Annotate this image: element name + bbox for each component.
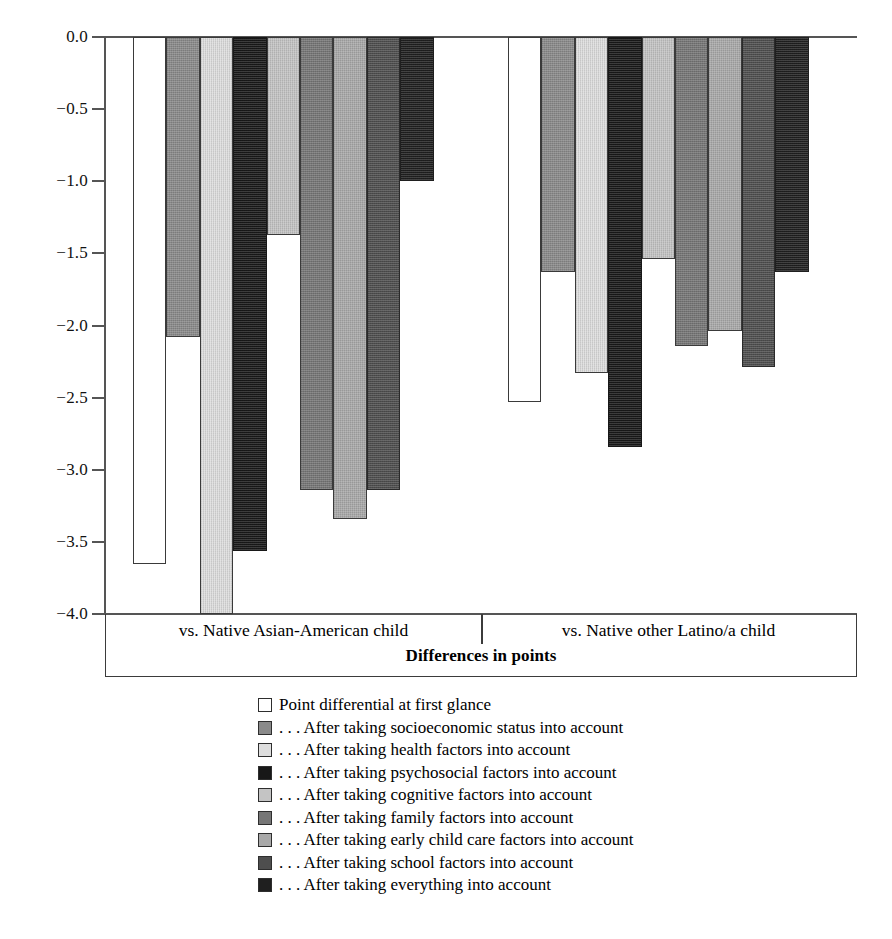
- y-axis-tick-label: −0.5: [56, 100, 88, 117]
- bar: [775, 37, 808, 272]
- bar: [333, 37, 366, 519]
- y-axis-tick-label: −1.5: [56, 244, 88, 261]
- legend-swatch-icon: [258, 811, 272, 825]
- legend-item: . . . After taking early child care fact…: [258, 829, 678, 852]
- legend-label: . . . After taking psychosocial factors …: [279, 763, 617, 783]
- legend-label: . . . After taking health factors into a…: [279, 740, 570, 760]
- y-axis-tick-label: 0.0: [66, 28, 88, 45]
- x-axis-title: Differences in points: [106, 644, 856, 668]
- legend-swatch-icon: [258, 878, 272, 892]
- chart-figure: 0.0−0.5−1.0−1.5−2.0−2.5−3.0−3.5−4.0 vs. …: [0, 0, 892, 939]
- legend-label: . . . After taking school factors into a…: [279, 853, 573, 873]
- y-axis-tick-label: −2.5: [56, 389, 88, 406]
- legend-label: . . . After taking everything into accou…: [279, 875, 551, 895]
- legend-item: . . . After taking cognitive factors int…: [258, 784, 678, 807]
- y-axis-tick-label: −2.0: [56, 317, 88, 334]
- legend-label: . . . After taking cognitive factors int…: [279, 785, 592, 805]
- legend-swatch-icon: [258, 856, 272, 870]
- y-axis-tick-label: −3.0: [56, 461, 88, 478]
- bar: [675, 37, 708, 346]
- legend-swatch-icon: [258, 766, 272, 780]
- category-label-other-latino: vs. Native other Latino/a child: [481, 618, 856, 642]
- legend-item: . . . After taking family factors into a…: [258, 807, 678, 830]
- plot-area: [105, 37, 857, 614]
- y-axis-tick-label: −4.0: [56, 605, 88, 622]
- legend-item: . . . After taking school factors into a…: [258, 852, 678, 875]
- bar: [608, 37, 641, 447]
- y-axis-tick-label: −1.0: [56, 172, 88, 189]
- legend-item: . . . After taking socioeconomic status …: [258, 717, 678, 740]
- bar: [367, 37, 400, 490]
- legend-swatch-icon: [258, 743, 272, 757]
- legend-label: . . . After taking family factors into a…: [279, 808, 573, 828]
- bar: [300, 37, 333, 490]
- legend-item: Point differential at first glance: [258, 694, 678, 717]
- bar: [541, 37, 574, 272]
- legend-label: . . . After taking early child care fact…: [279, 830, 634, 850]
- chart-legend: Point differential at first glance. . . …: [258, 694, 678, 897]
- bar: [508, 37, 541, 402]
- bar: [575, 37, 608, 373]
- bar: [742, 37, 775, 367]
- category-label-asian-american: vs. Native Asian-American child: [106, 618, 481, 642]
- legend-label: Point differential at first glance: [279, 695, 491, 715]
- bar: [233, 37, 266, 551]
- bar: [708, 37, 741, 331]
- legend-swatch-icon: [258, 833, 272, 847]
- legend-swatch-icon: [258, 721, 272, 735]
- category-band: vs. Native Asian-American child vs. Nati…: [105, 614, 857, 677]
- legend-item: . . . After taking everything into accou…: [258, 874, 678, 897]
- bar: [267, 37, 300, 235]
- legend-item: . . . After taking psychosocial factors …: [258, 762, 678, 785]
- bar: [642, 37, 675, 259]
- legend-swatch-icon: [258, 788, 272, 802]
- legend-swatch-icon: [258, 698, 272, 712]
- bar: [200, 37, 233, 614]
- bar: [133, 37, 166, 564]
- bar: [400, 37, 433, 181]
- y-axis-tick-label: −3.5: [56, 533, 88, 550]
- legend-item: . . . After taking health factors into a…: [258, 739, 678, 762]
- legend-label: . . . After taking socioeconomic status …: [279, 718, 623, 738]
- bar: [166, 37, 199, 337]
